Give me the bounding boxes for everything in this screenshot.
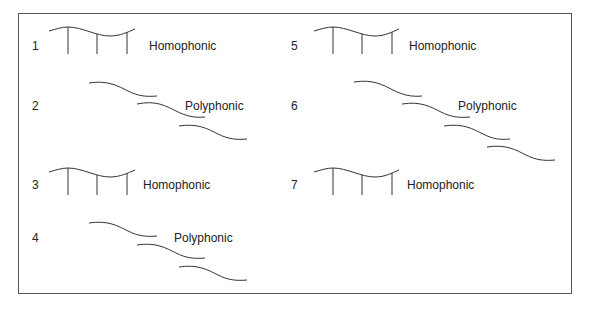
texture-label: Polyphonic (174, 232, 233, 244)
texture-label: Polyphonic (185, 100, 244, 112)
diagram-canvas (0, 0, 598, 315)
melody-line (49, 168, 135, 177)
texture-label: Homophonic (143, 179, 210, 191)
item-number: 5 (291, 40, 298, 52)
item-number: 4 (32, 232, 39, 244)
voice-line (137, 244, 205, 258)
voice-line (89, 82, 157, 96)
polyphonic-figure-6 (354, 81, 555, 160)
voice-line (487, 146, 555, 160)
melody-line (314, 27, 399, 36)
homophonic-figure-3 (49, 168, 135, 195)
item-number: 2 (32, 100, 39, 112)
item-number: 3 (32, 179, 39, 191)
melody-line (314, 168, 399, 177)
item-number: 6 (291, 100, 298, 112)
texture-label: Polyphonic (458, 100, 517, 112)
homophonic-figure-5 (314, 27, 399, 54)
item-number: 1 (32, 40, 39, 52)
voice-line (89, 222, 157, 236)
voice-line (179, 266, 247, 280)
texture-label: Homophonic (149, 40, 216, 52)
voice-line (354, 81, 422, 96)
homophonic-figure-7 (314, 168, 399, 195)
texture-label: Homophonic (407, 179, 474, 191)
homophonic-figure-1 (49, 27, 135, 54)
voice-line (179, 125, 247, 139)
voice-line (444, 125, 510, 139)
item-number: 7 (291, 179, 298, 191)
melody-line (49, 27, 135, 36)
texture-label: Homophonic (409, 40, 476, 52)
